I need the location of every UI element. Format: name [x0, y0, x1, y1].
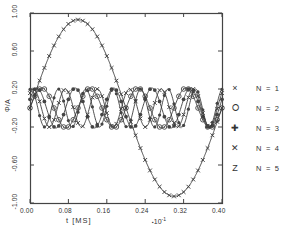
z-letter-marker	[52, 96, 55, 99]
z-letter-marker	[100, 122, 103, 125]
z-letter-marker	[105, 105, 108, 108]
plus-star-marker	[163, 115, 167, 119]
z-letter-marker	[43, 125, 46, 128]
z-letter-marker	[33, 94, 36, 97]
z-letter-marker	[211, 121, 214, 124]
plus-star-marker	[57, 124, 61, 128]
z-letter-marker	[81, 92, 84, 95]
z-letter-marker	[192, 90, 195, 93]
z-letter-marker	[196, 90, 199, 93]
circle-dot-marker-center	[154, 119, 156, 121]
z-letter-marker	[187, 108, 190, 111]
legend-label-3: N = 3	[256, 124, 280, 133]
z-letter-marker	[168, 88, 171, 91]
y-axis-title: Φ/A	[4, 91, 11, 121]
circle-dot-marker-center	[58, 119, 60, 121]
z-letter-marker	[216, 102, 219, 105]
plus-star-marker	[167, 125, 171, 129]
circle-dot-marker-center	[216, 119, 218, 121]
circle-dot-marker-center	[96, 95, 98, 97]
z-letter-marker	[62, 99, 65, 102]
legend-item-1[interactable]: ×N = 1	[228, 82, 280, 94]
legend-label-1: N = 1	[256, 84, 280, 93]
exponent-power: -1	[162, 216, 166, 222]
plus-star-marker	[177, 113, 181, 117]
circle-dot-marker-center	[168, 119, 170, 121]
plus-star-marker	[67, 97, 71, 101]
x-tick-label: 0.32	[174, 207, 187, 214]
circle-dot-marker-center	[101, 107, 103, 109]
legend-label-5: N = 5	[256, 164, 280, 173]
x-axis-title: t [MS]	[66, 216, 92, 225]
plus-star-marker	[134, 124, 138, 128]
circle-dot-marker-center	[92, 88, 94, 90]
x-tick-label: 0.08	[58, 207, 71, 214]
circle-dot-marker-center	[149, 107, 151, 109]
plus-star-marker	[28, 97, 32, 101]
z-letter-marker	[153, 125, 156, 128]
plus-star-marker	[81, 100, 85, 104]
circle-dot-marker-center	[44, 88, 46, 90]
y-tick-label: 0.60	[11, 38, 18, 62]
plus-star-marker	[91, 125, 95, 129]
circle-dot-marker-center	[106, 119, 108, 121]
circle-dot-marker-center	[63, 126, 65, 128]
circle-dot-marker-center	[116, 126, 118, 128]
x-axis-exponent-note: ▪10-1	[152, 216, 166, 225]
z-letter-marker	[129, 119, 132, 122]
y-tick-label: 1.00	[11, 0, 18, 24]
z-letter-marker	[182, 124, 185, 127]
z-letter-marker	[91, 105, 94, 108]
circle-dot-marker-center	[183, 88, 185, 90]
plus-star-marker	[62, 113, 66, 117]
z-letter-marker	[76, 111, 79, 114]
legend-item-2[interactable]: ⭘N = 2	[228, 102, 280, 114]
z-letter-marker	[134, 99, 137, 102]
z-letter-marker	[177, 121, 180, 124]
plus-star-marker	[52, 125, 56, 129]
plus-star-marker	[158, 100, 162, 104]
chart-svg	[0, 0, 293, 228]
circle-dot-marker-center	[164, 126, 166, 128]
z-letter-marker	[38, 114, 41, 117]
circle-dot-marker-center	[192, 95, 194, 97]
z-letter-marker	[172, 102, 175, 105]
legend-item-3[interactable]: ✚N = 3	[228, 122, 280, 134]
plus-star-marker	[182, 97, 186, 101]
z-letter-marker	[148, 117, 151, 120]
y-tick-label: -0.20	[11, 114, 18, 138]
legend-label-4: N = 4	[256, 144, 280, 153]
plus-star-marker	[124, 115, 128, 119]
circle-dot-marker-center	[221, 107, 223, 109]
z-letter-marker	[86, 89, 89, 92]
legend-item-5[interactable]: ZN = 5	[228, 162, 280, 174]
z-letter-marker	[139, 87, 142, 90]
x-tick-label: 0.00	[20, 207, 33, 214]
legend-item-4[interactable]: ✕N = 4	[228, 142, 280, 154]
z-letter-marker	[120, 111, 123, 114]
plus-star-marker	[153, 88, 157, 92]
circle-dot-marker-center	[135, 88, 137, 90]
z-letter-marker	[72, 125, 75, 128]
legend-label-2: N = 2	[256, 104, 280, 113]
z-letter-marker: Z	[228, 162, 242, 174]
plus-star-marker	[76, 88, 80, 92]
y-tick-label: -0.60	[11, 152, 18, 176]
y-tick-label: 0.20	[11, 76, 18, 100]
exponent-base: 10	[154, 218, 162, 225]
circle-dot-marker-center	[53, 107, 55, 109]
z-letter-marker	[144, 97, 147, 100]
z-letter-marker	[206, 124, 209, 127]
plus-star-marker	[100, 113, 104, 117]
z-letter-marker	[163, 94, 166, 97]
circle-dot-marker-center	[68, 126, 70, 128]
x-bold-marker: ✕	[228, 142, 242, 154]
z-letter-marker	[220, 88, 223, 91]
circle-dot-marker-center	[197, 107, 199, 109]
plus-star-marker	[38, 88, 42, 92]
plus-star-marker	[71, 87, 75, 91]
z-letter-marker	[158, 113, 161, 116]
z-letter-marker	[48, 116, 51, 119]
plot-figure: 0.000.080.160.240.320.401.000.600.20-0.2…	[0, 0, 293, 228]
plus-star-marker	[43, 100, 47, 104]
